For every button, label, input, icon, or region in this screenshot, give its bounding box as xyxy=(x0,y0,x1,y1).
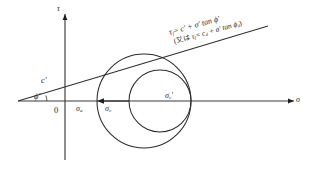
failure-envelope-line xyxy=(18,26,268,101)
sigma-c-label: σc xyxy=(105,105,111,114)
sigma-c-subscript: c xyxy=(109,108,111,113)
sigma-axis-arrowhead xyxy=(288,99,294,104)
figure-canvas xyxy=(0,0,316,176)
sigma-axis-label: σ xyxy=(296,96,300,104)
stress-shift-arrow-head xyxy=(97,98,104,104)
sigma-c-prime-mark: ' xyxy=(171,91,173,100)
sigma-c-prime-label: σc' xyxy=(165,92,173,101)
equation-secondary-or-word: 又は xyxy=(175,34,190,44)
friction-angle-arc xyxy=(46,96,47,102)
sigma-a-subscript: a xyxy=(80,108,82,113)
friction-angle-label: ϕ' xyxy=(34,92,40,101)
tau-axis-label: τ xyxy=(57,5,60,13)
mohr-coulomb-figure: τ σ 0 c' ϕ' σa σc σc' τf= c' + σ' tan ϕ'… xyxy=(0,0,316,176)
sigma-a-label: σa xyxy=(76,105,82,114)
origin-label: 0 xyxy=(54,106,58,115)
tau-axis-arrowhead xyxy=(63,14,68,20)
cohesion-intercept-label: c' xyxy=(41,76,47,85)
